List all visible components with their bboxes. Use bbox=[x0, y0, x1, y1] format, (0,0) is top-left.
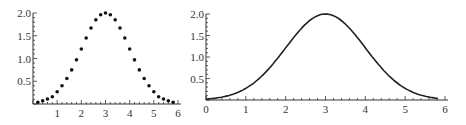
y-tick-label: 1.0 bbox=[190, 51, 204, 63]
x-tick-label: 5 bbox=[151, 107, 157, 119]
data-point bbox=[89, 26, 93, 30]
data-point bbox=[99, 13, 103, 17]
x-tick-label: 3 bbox=[103, 107, 109, 119]
data-point bbox=[80, 47, 84, 51]
y-tick-label: 2.0 bbox=[17, 7, 31, 19]
data-point bbox=[104, 11, 108, 15]
x-tick-label: 2 bbox=[283, 103, 289, 115]
data-point bbox=[70, 68, 74, 72]
y-tick-label: 2.0 bbox=[190, 8, 204, 20]
x-tick-label: 1 bbox=[54, 107, 60, 119]
x-tick-label: 6 bbox=[175, 107, 181, 119]
data-point bbox=[94, 18, 98, 22]
data-point bbox=[65, 77, 69, 81]
y-tick-label: 0.5 bbox=[17, 75, 31, 87]
data-point bbox=[167, 99, 171, 103]
data-point bbox=[75, 58, 79, 62]
data-point bbox=[162, 97, 166, 101]
right-chart: 01234560.51.01.52.0 bbox=[190, 8, 448, 115]
left-chart: 1234560.51.01.52.0 bbox=[17, 7, 181, 119]
data-point bbox=[46, 97, 50, 101]
data-point bbox=[84, 36, 88, 40]
data-point bbox=[55, 90, 59, 94]
y-tick-label: 1.5 bbox=[17, 30, 31, 42]
x-tick-label: 1 bbox=[243, 103, 249, 115]
data-point bbox=[128, 47, 132, 51]
data-point bbox=[41, 99, 45, 103]
y-tick-label: 1.5 bbox=[190, 30, 204, 42]
charts: 1234560.51.01.52.001234560.51.01.52.0 bbox=[0, 0, 466, 125]
data-point bbox=[147, 84, 151, 88]
data-point bbox=[138, 68, 142, 72]
curve-line bbox=[206, 14, 438, 99]
data-point bbox=[157, 95, 161, 99]
x-tick-label: 4 bbox=[127, 107, 133, 119]
data-point bbox=[60, 84, 64, 88]
x-tick-label: 3 bbox=[323, 103, 329, 115]
x-tick-label: 2 bbox=[79, 107, 85, 119]
data-point bbox=[171, 100, 175, 104]
data-point bbox=[133, 58, 137, 62]
data-point bbox=[109, 13, 113, 17]
x-tick-label: 5 bbox=[402, 103, 408, 115]
data-point bbox=[36, 100, 40, 104]
x-tick-label: 0 bbox=[203, 103, 209, 115]
data-point bbox=[142, 77, 146, 81]
y-tick-label: 0.5 bbox=[190, 73, 204, 85]
data-point bbox=[113, 18, 117, 22]
data-point bbox=[152, 90, 156, 94]
data-point bbox=[51, 95, 55, 99]
data-point bbox=[123, 36, 127, 40]
data-point bbox=[118, 26, 122, 30]
y-tick-label: 1.0 bbox=[17, 53, 31, 65]
x-tick-label: 6 bbox=[442, 103, 448, 115]
x-tick-label: 4 bbox=[363, 103, 369, 115]
